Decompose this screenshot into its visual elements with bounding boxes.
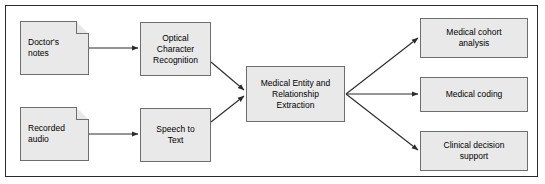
node-speech-to-text[interactable]: Speech to Text [140,108,211,162]
node-medical-coding[interactable]: Medical coding [420,77,528,112]
node-doctors-notes[interactable]: Doctor's notes [20,21,89,75]
diagram-canvas: Doctor's notes Recorded audio Optical Ch… [0,0,545,184]
node-medical-entity-relationship-extraction[interactable]: Medical Entity and Relationship Extracti… [246,66,345,122]
node-label-doctors-notes: Doctor's notes [28,21,81,75]
node-label-recorded-audio: Recorded audio [28,107,81,161]
node-clinical-decision-support[interactable]: Clinical decision support [420,131,528,171]
node-medical-cohort-analysis[interactable]: Medical cohort analysis [420,18,528,58]
node-ocr[interactable]: Optical Character Recognition [140,22,211,76]
node-recorded-audio[interactable]: Recorded audio [20,107,89,161]
